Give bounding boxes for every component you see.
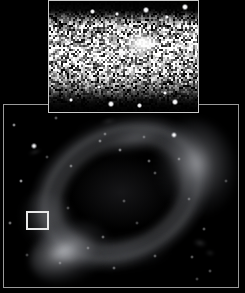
inset-image-panel[interactable] bbox=[48, 0, 199, 113]
inset-selection-box[interactable] bbox=[26, 211, 49, 230]
resolved-star-field-noise bbox=[48, 0, 199, 113]
astronomy-figure: Ring galaxy wide-field image with magnif… bbox=[0, 0, 245, 293]
main-image-panel[interactable] bbox=[3, 104, 239, 288]
